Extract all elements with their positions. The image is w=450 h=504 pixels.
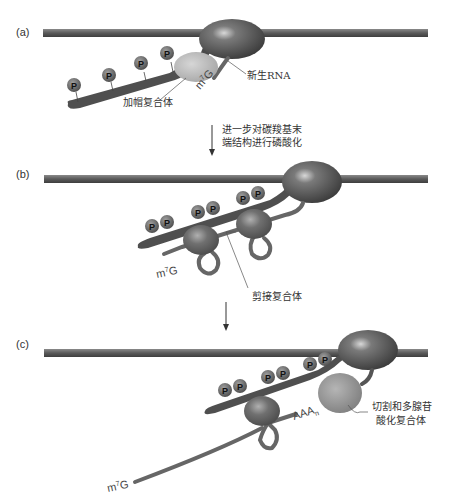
polya-tail-label: AAAn xyxy=(291,402,320,423)
rna-polymerase xyxy=(199,19,265,59)
svg-text:P: P xyxy=(164,49,170,59)
svg-text:P: P xyxy=(106,71,112,81)
cleavage-polyadenylation-complex xyxy=(318,373,362,413)
dna-strand xyxy=(44,175,428,183)
svg-text:P: P xyxy=(265,373,271,383)
svg-text:P: P xyxy=(164,218,170,228)
panel-a: (a) P P P P m7G xyxy=(16,19,428,109)
transition-text-line1: 进一步对碳羧基末 xyxy=(222,123,302,135)
svg-text:P: P xyxy=(210,204,216,214)
panel-c: (c) P P P P P P AAAn m7G xyxy=(16,330,432,494)
transition-arrow-2 xyxy=(223,302,229,331)
arrow-down-icon xyxy=(223,324,229,331)
rna-stub xyxy=(362,370,372,384)
panel-b: (b) P P P P P P m7G 剪接复合体 xyxy=(16,161,428,302)
svg-text:P: P xyxy=(138,59,144,69)
panel-label-a: (a) xyxy=(16,26,29,38)
mrna-strand xyxy=(135,414,296,482)
cleavage-complex-label-line1: 切割和多腺苷 xyxy=(372,400,432,412)
splicing-complex-label: 剪接复合体 xyxy=(252,290,302,302)
splicing-complex xyxy=(183,225,219,255)
cap-label-c: m7G xyxy=(106,478,130,494)
transcription-diagram: (a) P P P P m7G xyxy=(0,0,450,504)
cap-label-b: m7G xyxy=(155,264,179,280)
capping-complex-label: 加帽复合体 xyxy=(123,96,173,108)
svg-text:P: P xyxy=(280,369,286,379)
nascent-rna-label: 新生RNA xyxy=(247,69,291,81)
svg-text:P: P xyxy=(149,222,155,232)
panel-label-b: (b) xyxy=(16,168,29,180)
svg-text:P: P xyxy=(240,194,246,204)
svg-text:P: P xyxy=(307,360,313,370)
svg-text:P: P xyxy=(195,208,201,218)
svg-text:P: P xyxy=(255,189,261,199)
splicing-complex xyxy=(244,396,280,426)
svg-text:P: P xyxy=(322,355,328,365)
transition-arrow-1: 进一步对碳羧基末 端结构进行磷酸化 xyxy=(209,123,302,156)
arrow-down-icon xyxy=(209,149,215,156)
cleavage-complex-label-line2: 酸化复合体 xyxy=(376,414,426,426)
panel-label-c: (c) xyxy=(16,338,29,350)
svg-text:P: P xyxy=(237,382,243,392)
svg-text:P: P xyxy=(71,81,77,91)
rna-polymerase xyxy=(338,330,398,370)
transition-text-line2: 端结构进行磷酸化 xyxy=(222,136,302,148)
svg-text:P: P xyxy=(222,386,228,396)
splicing-complex xyxy=(236,209,272,239)
rna-polymerase xyxy=(282,161,342,203)
